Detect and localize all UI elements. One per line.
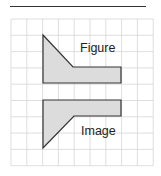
image-label: Image	[81, 124, 116, 138]
figure-image-diagram: Figure Image	[0, 0, 161, 176]
figure-label: Figure	[80, 41, 115, 55]
